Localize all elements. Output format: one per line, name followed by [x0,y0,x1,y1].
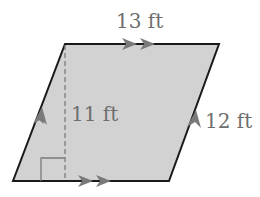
height-label: 11 ft [71,102,118,126]
top-base-label: 13 ft [116,9,163,33]
side-label: 12 ft [205,109,252,133]
parallelogram-diagram: 13 ft 11 ft 12 ft [0,0,260,197]
